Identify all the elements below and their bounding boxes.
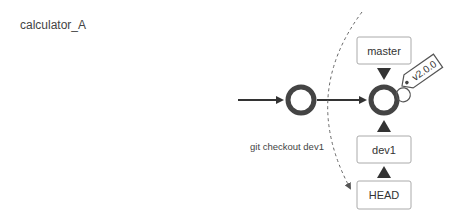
head-pointer-icon xyxy=(377,166,391,178)
master-pointer-icon xyxy=(377,68,391,80)
git-diagram: master v2.0.0 dev1 HEAD git checkout dev… xyxy=(0,0,469,219)
head-ref-label: HEAD xyxy=(369,189,400,201)
dev1-pointer-icon xyxy=(377,120,391,132)
commit-node-2 xyxy=(371,87,397,113)
dev1-ref-label: dev1 xyxy=(372,144,396,156)
checkout-command-label: git checkout dev1 xyxy=(250,141,324,152)
master-ref-label: master xyxy=(367,45,401,57)
commit-node-1 xyxy=(288,87,314,113)
